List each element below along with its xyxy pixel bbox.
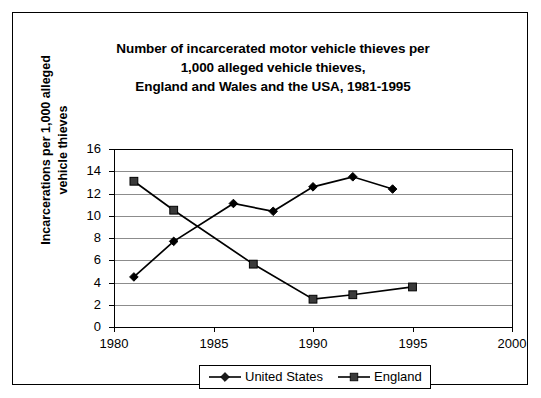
data-point-diamond <box>349 173 358 182</box>
chart-outer-frame: Number of incarcerated motor vehicle thi… <box>12 12 528 385</box>
y-tick-label: 6 <box>61 253 101 266</box>
y-tick-label: 16 <box>61 142 101 155</box>
x-tick-label: 1995 <box>383 337 443 350</box>
x-tick-label: 2000 <box>482 337 541 350</box>
chart-title-line-3: England and Wales and the USA, 1981-1995 <box>53 77 493 96</box>
legend-label-england: England <box>374 369 422 384</box>
chart-title-line-1: Number of incarcerated motor vehicle thi… <box>53 39 493 58</box>
y-tick-label: 4 <box>61 276 101 289</box>
series-line-united-states <box>134 177 393 277</box>
plot-border-right <box>512 149 513 328</box>
x-tick-label: 1990 <box>283 337 343 350</box>
square-marker-icon <box>337 371 371 383</box>
chart-page: Number of incarcerated motor vehicle thi… <box>0 0 541 398</box>
x-tick-label: 1980 <box>84 337 144 350</box>
legend-label-united-states: United States <box>245 369 323 384</box>
data-point-diamond <box>309 183 318 192</box>
x-axis-line <box>114 327 513 328</box>
data-point-diamond <box>229 199 238 208</box>
data-point-square <box>349 291 357 299</box>
y-tick-label: 8 <box>61 231 101 244</box>
chart-title: Number of incarcerated motor vehicle thi… <box>53 39 493 96</box>
y-tick-label: 0 <box>61 320 101 333</box>
y-axis-title-line-1: Incarcerations per 1,000 alleged <box>38 40 55 260</box>
legend-item-england[interactable]: England <box>337 369 422 384</box>
data-point-square <box>309 295 317 303</box>
diamond-marker-icon <box>208 371 242 383</box>
data-point-diamond <box>388 185 397 194</box>
chart-legend: United States England <box>199 365 431 389</box>
data-point-square <box>249 260 257 268</box>
data-point-diamond <box>269 207 278 216</box>
data-point-square <box>170 206 178 214</box>
y-tick-label: 10 <box>61 209 101 222</box>
chart-title-line-2: 1,000 alleged vehicle thieves, <box>53 58 493 77</box>
y-tick-label: 12 <box>61 187 101 200</box>
y-tick-label: 14 <box>61 164 101 177</box>
x-tick-label: 1985 <box>184 337 244 350</box>
data-point-square <box>409 283 417 291</box>
y-tick-label: 2 <box>61 298 101 311</box>
legend-item-united-states[interactable]: United States <box>208 369 323 384</box>
data-point-square <box>130 177 138 185</box>
data-series-layer <box>114 149 512 327</box>
